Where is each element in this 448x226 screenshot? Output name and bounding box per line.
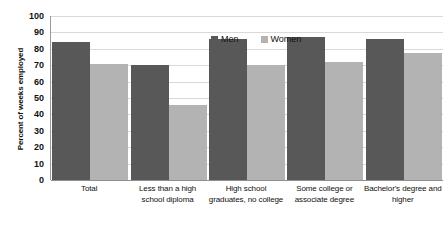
bar-men[interactable] [52, 42, 90, 180]
y-axis-tick-label: 70 [18, 60, 44, 70]
bar-men[interactable] [366, 39, 404, 180]
bar-women[interactable] [169, 105, 207, 180]
bar-men[interactable] [287, 37, 325, 180]
bar-women[interactable] [247, 65, 285, 180]
bar-group [51, 16, 129, 180]
bar-women[interactable] [404, 53, 442, 180]
chart-legend: MenWomen [211, 32, 301, 46]
legend-label: Men [221, 34, 239, 44]
legend-swatch-icon [211, 36, 218, 43]
bar-women[interactable] [90, 64, 128, 180]
bar-group [129, 16, 207, 180]
x-axis-label: Some college or associate degree [285, 184, 363, 205]
legend-entry[interactable]: Men [211, 34, 239, 44]
y-axis-tick-label: 60 [18, 77, 44, 87]
y-axis-tick-label: 0 [18, 175, 44, 185]
y-axis-tick-label: 100 [18, 11, 44, 21]
y-axis-tick-label: 20 [18, 142, 44, 152]
y-axis-tick-label: 90 [18, 27, 44, 37]
legend-swatch-icon [261, 36, 268, 43]
y-axis-tick-label: 80 [18, 44, 44, 54]
legend-entry[interactable]: Women [261, 34, 302, 44]
y-axis-tick-labels: 1009080706050403020100 [18, 10, 44, 186]
bar-men[interactable] [131, 65, 169, 180]
x-axis-label: Bachelor's degree and higher [364, 184, 442, 205]
y-axis-tick-label: 40 [18, 109, 44, 119]
y-axis-tick-label: 10 [18, 159, 44, 169]
bar-chart: Percent of weeks employed 10090807060504… [0, 0, 448, 226]
bar-group [365, 16, 443, 180]
axis-baseline [51, 180, 443, 181]
bar-men[interactable] [209, 39, 247, 180]
y-axis-tick-label: 30 [18, 126, 44, 136]
x-axis-label: High school graduates, no college [207, 184, 285, 205]
x-axis-category-labels: TotalLess than a high school diplomaHigh… [50, 184, 442, 226]
x-axis-label: Total [50, 184, 128, 195]
y-axis-tick-label: 50 [18, 93, 44, 103]
legend-label: Women [271, 34, 302, 44]
x-axis-label: Less than a high school diploma [128, 184, 206, 205]
bar-women[interactable] [325, 62, 363, 180]
plot-area: MenWomen [50, 16, 443, 180]
